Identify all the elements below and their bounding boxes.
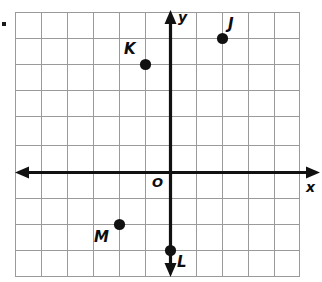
point-j[interactable] (217, 33, 228, 44)
coordinate-plane-graphic (0, 0, 322, 282)
point-m[interactable] (114, 219, 125, 230)
point-label-j: J (228, 17, 234, 32)
grid-background (15, 12, 300, 277)
point-label-k: K (124, 42, 136, 57)
coordinate-plane-figure: J K L M y x O (0, 0, 322, 282)
arrow-right-icon (306, 167, 320, 179)
origin-label: O (152, 176, 163, 189)
x-axis-label: x (306, 180, 315, 194)
y-axis-label: y (178, 10, 187, 24)
point-l[interactable] (165, 245, 176, 256)
point-k[interactable] (140, 59, 151, 70)
point-label-l: L (177, 255, 187, 270)
point-label-m: M (94, 230, 109, 245)
